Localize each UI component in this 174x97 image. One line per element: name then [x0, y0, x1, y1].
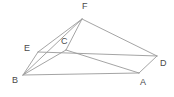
edge-e-f: [38, 19, 82, 52]
vertex-label-b: B: [12, 76, 18, 85]
edge-group: [23, 19, 157, 75]
vertex-label-e: E: [24, 44, 30, 53]
edge-b-f: [23, 19, 82, 75]
vertex-label-c: C: [61, 37, 68, 46]
vertex-label-d: D: [160, 59, 167, 68]
vertex-label-f: F: [82, 2, 88, 11]
edge-b-a: [23, 73, 139, 75]
edge-f-d: [82, 19, 157, 56]
edge-b-c: [23, 50, 66, 75]
edge-a-d: [139, 56, 157, 73]
edge-c-f: [66, 19, 82, 50]
vertex-label-a: A: [140, 78, 146, 87]
geometry-figure: BADECF: [0, 0, 174, 97]
edge-c-a: [66, 50, 139, 73]
